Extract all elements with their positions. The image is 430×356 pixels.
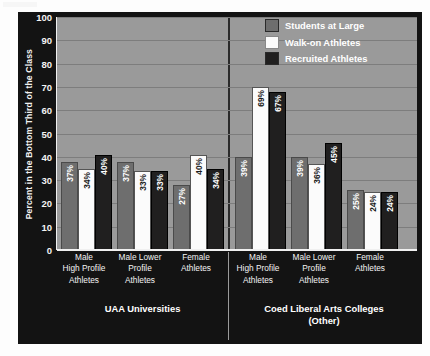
- x-category-line: Athletes: [340, 263, 400, 274]
- y-tick-70: 70: [41, 81, 52, 92]
- bar-value-label: 33%: [155, 174, 165, 191]
- x-category-line: Athletes: [166, 263, 226, 274]
- y-tick-40: 40: [41, 151, 52, 162]
- gridline-50: [57, 134, 417, 135]
- scan-artifact: [3, 2, 37, 7]
- x-category-line: Athletes: [110, 275, 170, 286]
- bar: 34%: [78, 169, 95, 250]
- x-category-line: Male: [228, 252, 288, 263]
- x-category-label: Male LowerProfileAthletes: [284, 252, 344, 286]
- bar-value-label: 37%: [121, 165, 131, 182]
- legend-swatch-icon: [265, 36, 279, 49]
- legend-item: Recruited Athletes: [265, 52, 367, 65]
- legend-label: Walk-on Athletes: [285, 37, 360, 48]
- x-category-label: FemaleAthletes: [340, 252, 400, 275]
- bar-value-label: 69%: [256, 90, 266, 107]
- y-tick-30: 30: [41, 175, 52, 186]
- chart-legend: Students at LargeWalk-on AthletesRecruit…: [265, 19, 367, 69]
- x-axis-panel-divider: [228, 252, 229, 340]
- y-axis-tick-labels: 0102030405060708090100: [34, 12, 56, 252]
- bar-value-label: 39%: [239, 160, 249, 177]
- x-category-line: High Profile: [54, 263, 114, 274]
- bar: 37%: [61, 162, 78, 250]
- x-category-label: MaleHigh ProfileAthletes: [228, 252, 288, 286]
- x-category-line: Female: [340, 252, 400, 263]
- panel-title-right-line1: Coed Liberal Arts Colleges: [264, 303, 383, 314]
- bar-value-label: 25%: [351, 193, 361, 210]
- bar: 39%: [235, 157, 252, 250]
- bar-value-label: 37%: [65, 165, 75, 182]
- x-axis-line: [57, 249, 417, 251]
- y-tick-100: 100: [36, 12, 52, 23]
- legend-item: Walk-on Athletes: [265, 36, 367, 49]
- bar: 69%: [252, 87, 269, 250]
- x-category-label: Male LowerProfileAthletes: [110, 252, 170, 286]
- bar-value-label: 45%: [329, 146, 339, 163]
- bar: 25%: [347, 190, 364, 250]
- legend-swatch-icon: [265, 52, 279, 65]
- bar: 67%: [269, 92, 286, 250]
- bar-value-label: 34%: [211, 172, 221, 189]
- bar-value-label: 27%: [177, 188, 187, 205]
- x-axis-category-labels: MaleHigh ProfileAthletesMale LowerProfil…: [57, 252, 417, 294]
- x-category-line: Male Lower: [284, 252, 344, 263]
- y-tick-10: 10: [41, 221, 52, 232]
- gridline-100: [57, 17, 417, 18]
- legend-label: Students at Large: [285, 20, 364, 31]
- bar: 37%: [117, 162, 134, 250]
- legend-swatch-icon: [265, 19, 279, 32]
- bar: 27%: [173, 185, 190, 250]
- bar: 33%: [134, 171, 151, 250]
- chart-figure: Percent in the Bottom Third of the Class…: [0, 0, 430, 356]
- bar-value-label: 40%: [194, 158, 204, 175]
- bar: 36%: [308, 164, 325, 250]
- x-category-line: High Profile: [228, 263, 288, 274]
- bar-value-label: 40%: [99, 158, 109, 175]
- panel-title-left: UAA Universities: [57, 303, 228, 315]
- y-tick-0: 0: [47, 245, 52, 256]
- x-category-line: Male: [54, 252, 114, 263]
- x-category-line: Athletes: [54, 275, 114, 286]
- bar-value-label: 39%: [295, 160, 305, 177]
- bar-value-label: 24%: [368, 195, 378, 212]
- y-tick-80: 80: [41, 58, 52, 69]
- panel-title-right-line2: (Other): [308, 315, 339, 326]
- x-category-line: Athletes: [284, 275, 344, 286]
- bar-value-label: 33%: [138, 174, 148, 191]
- y-tick-60: 60: [41, 105, 52, 116]
- legend-item: Students at Large: [265, 19, 367, 32]
- gridline-60: [57, 110, 417, 111]
- bar: 24%: [381, 192, 398, 250]
- y-axis-line: [56, 17, 57, 250]
- bar: 40%: [95, 155, 112, 250]
- x-category-line: Male Lower: [110, 252, 170, 263]
- x-category-line: Profile: [284, 263, 344, 274]
- panel-title-left-text: UAA Universities: [105, 303, 181, 314]
- bar: 39%: [291, 157, 308, 250]
- bar-value-label: 24%: [385, 195, 395, 212]
- x-category-label: FemaleAthletes: [166, 252, 226, 275]
- bar-value-label: 36%: [312, 167, 322, 184]
- x-category-line: Profile: [110, 263, 170, 274]
- x-category-label: MaleHigh ProfileAthletes: [54, 252, 114, 286]
- y-axis-title-text: Percent in the Bottom Third of the Class: [24, 49, 34, 219]
- bar: 24%: [364, 192, 381, 250]
- x-category-line: Female: [166, 252, 226, 263]
- bar: 34%: [207, 169, 224, 250]
- y-tick-50: 50: [41, 128, 52, 139]
- bar: 33%: [151, 171, 168, 250]
- panel-title-right: Coed Liberal Arts Colleges (Other): [231, 303, 417, 326]
- y-tick-20: 20: [41, 198, 52, 209]
- bar-value-label: 67%: [273, 95, 283, 112]
- y-tick-90: 90: [41, 35, 52, 46]
- x-category-line: Athletes: [228, 275, 288, 286]
- legend-label: Recruited Athletes: [285, 53, 367, 64]
- bar-value-label: 34%: [82, 172, 92, 189]
- bar: 40%: [190, 155, 207, 250]
- gridline-70: [57, 87, 417, 88]
- bar: 45%: [325, 143, 342, 250]
